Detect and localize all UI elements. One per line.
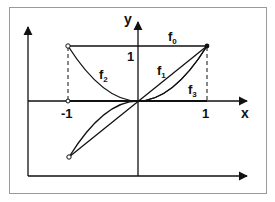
x-axis-label: x: [241, 106, 249, 120]
tick-label-y-pos-one: 1: [127, 50, 134, 63]
label-f0: f0: [168, 30, 177, 43]
label-f1: f1: [157, 64, 166, 77]
label-f3-sub: 3: [192, 90, 196, 99]
open-point-neg1-pos1: [66, 44, 70, 48]
label-f2-sub: 2: [103, 75, 107, 84]
tick-label-x-neg-one: -1: [61, 107, 73, 120]
open-point-neg1-axis: [66, 99, 70, 103]
label-f1-sub: 1: [161, 71, 165, 80]
power-functions-diagram: y x -1 1 1 f0 f1 f2 f3: [0, 0, 275, 202]
label-f2: f2: [99, 68, 108, 81]
label-f3: f3: [188, 83, 197, 96]
label-f0-sub: 0: [172, 37, 176, 46]
diagram-canvas: [0, 0, 275, 202]
tick-label-x-pos-one: 1: [202, 107, 209, 120]
y-axis-label: y: [124, 12, 132, 26]
closed-point-pos1-pos1: [205, 44, 210, 49]
open-point-neg1-neg1: [67, 155, 71, 159]
